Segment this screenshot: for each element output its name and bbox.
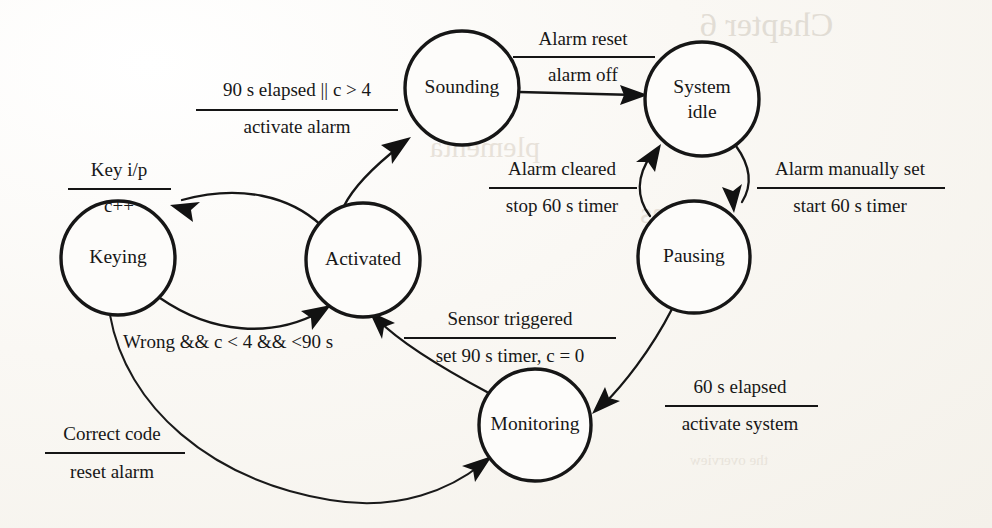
state-node-sounding[interactable]: Sounding bbox=[405, 31, 519, 145]
transition-event-label: Alarm reset bbox=[538, 28, 628, 49]
arrowhead bbox=[462, 456, 492, 482]
arrowhead bbox=[301, 305, 331, 330]
edge-activated-to-sounding bbox=[344, 137, 411, 206]
transition-action-label: start 60 s timer bbox=[793, 195, 907, 216]
state-node-keying[interactable]: Keying bbox=[61, 201, 175, 315]
transition-label-pausing-to-monitoring: 60 s elapsed activate system bbox=[665, 376, 818, 434]
transition-label-activated-to-sounding: 90 s elapsed || c > 4 activate alarm bbox=[196, 79, 398, 137]
state-transition-diagram: Sounding System idle Keying Activated Pa… bbox=[0, 0, 992, 528]
arrowhead bbox=[381, 137, 411, 164]
transition-event-label: Key i/p bbox=[91, 159, 147, 180]
transition-action-label: activate system bbox=[682, 413, 799, 434]
transition-event-label: Alarm manually set bbox=[775, 158, 926, 179]
transition-action-label: stop 60 s timer bbox=[506, 195, 619, 216]
edge-line bbox=[604, 309, 672, 404]
transition-event-label: 60 s elapsed bbox=[694, 376, 787, 397]
transition-event-label: 90 s elapsed || c > 4 bbox=[223, 79, 372, 100]
state-label-keying: Keying bbox=[89, 246, 147, 267]
edge-keying-to-activated-wrong bbox=[160, 298, 331, 330]
transition-action-label: c++ bbox=[104, 195, 134, 216]
edge-pausing-to-monitoring bbox=[592, 309, 672, 414]
diagram-page: Chapter 6 plementa options the overview bbox=[0, 0, 992, 528]
arrowhead bbox=[636, 144, 661, 172]
state-label-system-idle-line1: System bbox=[673, 76, 730, 97]
edge-pausing-to-system-idle bbox=[636, 144, 661, 216]
state-label-sounding: Sounding bbox=[425, 76, 500, 97]
state-node-system-idle[interactable]: System idle bbox=[645, 42, 759, 156]
transition-action-label: activate alarm bbox=[243, 116, 350, 137]
transition-label-sounding-to-system-idle: Alarm reset alarm off bbox=[513, 28, 655, 85]
edge-activated-to-keying bbox=[170, 193, 322, 226]
transition-label-system-idle-to-pausing: Alarm manually set start 60 s timer bbox=[757, 158, 945, 216]
transition-action-label: reset alarm bbox=[70, 461, 154, 482]
state-label-monitoring: Monitoring bbox=[491, 413, 580, 434]
edge-line bbox=[160, 298, 320, 329]
transition-label-keying-to-activated-wrong: Wrong && c < 4 && <90 s bbox=[123, 331, 333, 352]
transition-event-label: Sensor triggered bbox=[447, 308, 573, 329]
edge-system-idle-to-pausing bbox=[722, 146, 749, 213]
arrowhead bbox=[170, 202, 200, 222]
edge-sounding-to-system-idle bbox=[519, 85, 648, 105]
state-node-monitoring[interactable]: Monitoring bbox=[479, 369, 591, 481]
state-circle bbox=[645, 42, 759, 156]
transition-label-monitoring-to-activated: Sensor triggered set 90 s timer, c = 0 bbox=[404, 308, 616, 366]
transition-label-pausing-to-system-idle: Alarm cleared stop 60 s timer bbox=[489, 158, 637, 216]
transition-event-label: Wrong && c < 4 && <90 s bbox=[123, 331, 333, 352]
transition-action-label: alarm off bbox=[548, 64, 618, 85]
transition-event-label: Correct code bbox=[63, 423, 161, 444]
transition-label-keying-key-input: Key i/p c++ bbox=[68, 159, 171, 216]
state-label-system-idle-line2: idle bbox=[687, 101, 716, 122]
transition-label-keying-to-monitoring-correct: Correct code reset alarm bbox=[45, 423, 185, 482]
edge-line bbox=[519, 92, 636, 95]
state-label-activated: Activated bbox=[325, 248, 401, 269]
state-node-pausing[interactable]: Pausing bbox=[638, 201, 750, 313]
edge-line bbox=[182, 193, 322, 226]
state-label-pausing: Pausing bbox=[663, 245, 725, 266]
transition-action-label: set 90 s timer, c = 0 bbox=[436, 345, 585, 366]
transition-event-label: Alarm cleared bbox=[508, 158, 617, 179]
state-node-activated[interactable]: Activated bbox=[306, 203, 420, 317]
